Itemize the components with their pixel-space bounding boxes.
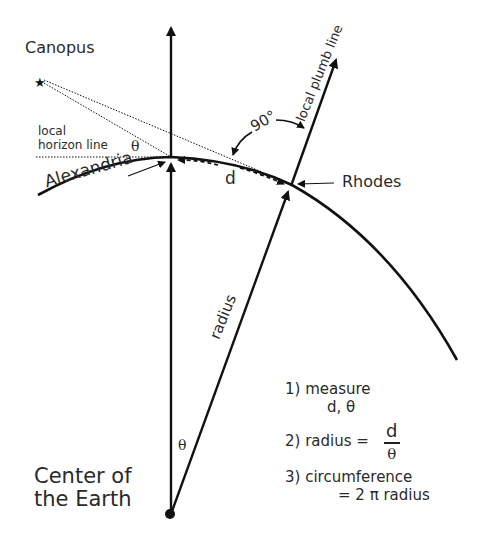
rhodes-pointer [298, 183, 334, 184]
theta-center-label: θ [178, 437, 186, 453]
radius-line-rhodes [171, 192, 288, 514]
horizon-label: local horizon line [38, 124, 108, 152]
center-of-earth-label: Center of the Earth [34, 465, 132, 511]
fraction-denominator: θ [387, 446, 396, 462]
step-2-fraction: d θ [384, 422, 400, 462]
step-3: 3) circumference [285, 468, 430, 486]
rhodes-label: Rhodes [342, 172, 401, 191]
star-label: Canopus [25, 38, 95, 57]
fraction-bar [384, 442, 400, 444]
horizon-label-line2: horizon line [38, 138, 108, 152]
step-1-values: d, θ [285, 398, 430, 416]
step-2: 2) radius = d θ [285, 422, 430, 462]
step-3-formula: = 2 π radius [285, 486, 430, 504]
step-2-prefix: 2) radius = [285, 432, 369, 450]
right-angle-arc-right [276, 120, 304, 128]
center-label-line1: Center of [34, 465, 132, 488]
theta-horizon-label: θ [131, 138, 139, 154]
fraction-numerator: d [386, 422, 397, 440]
arc-distance-arrow-right [240, 168, 284, 184]
steps-list: 1) measure d, θ 2) radius = d θ 3) circu… [285, 380, 430, 504]
right-angle-arc-left [233, 132, 252, 155]
step-1: 1) measure [285, 380, 430, 398]
center-label-line2: the Earth [34, 488, 132, 511]
dot-icon [165, 509, 175, 519]
star-icon: ★ [34, 75, 46, 90]
arc-distance-label: d [225, 168, 236, 188]
horizon-label-line1: local [38, 124, 108, 138]
